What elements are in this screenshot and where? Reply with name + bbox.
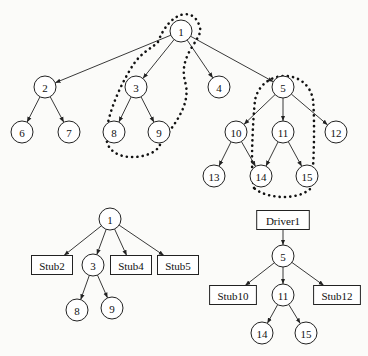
node-left_subtree-3: 3 bbox=[82, 254, 104, 276]
node-label: 8 bbox=[74, 305, 80, 317]
node-label: 9 bbox=[109, 303, 115, 315]
node-label: 14 bbox=[256, 171, 268, 183]
node-right_subtree-15: 15 bbox=[295, 322, 317, 344]
node-label: Stub4 bbox=[118, 260, 144, 272]
integration-test-diagram: 1234567891011121314151Stub23Stub4Stub589… bbox=[0, 0, 368, 356]
node-label: 3 bbox=[90, 260, 96, 272]
edge-right_subtree-5-to-stub10 bbox=[245, 263, 274, 286]
edge-top_tree-5-to-10 bbox=[244, 95, 275, 125]
node-label: 15 bbox=[302, 171, 314, 183]
node-top_tree-8: 8 bbox=[103, 121, 125, 143]
edge-left_subtree-3-to-8 bbox=[81, 275, 90, 299]
node-left_subtree-9: 9 bbox=[101, 297, 123, 319]
edge-top_tree-3-to-8 bbox=[119, 97, 131, 122]
node-right_subtree-stub10: Stub10 bbox=[210, 286, 257, 305]
node-label: Stub5 bbox=[165, 260, 191, 272]
node-label: 13 bbox=[209, 171, 221, 183]
nodes: 1234567891011121314151Stub23Stub4Stub589… bbox=[11, 20, 360, 344]
node-top_tree-12: 12 bbox=[325, 121, 347, 143]
edge-top_tree-1-to-4 bbox=[187, 40, 213, 78]
node-right_subtree-driver1: Driver1 bbox=[257, 211, 310, 230]
node-top_tree-14: 14 bbox=[250, 165, 272, 187]
node-label: 11 bbox=[278, 127, 289, 139]
node-label: 5 bbox=[280, 82, 286, 94]
node-label: Stub2 bbox=[39, 260, 65, 272]
edge-left_subtree-1-to-stub4 bbox=[115, 229, 127, 255]
node-left_subtree-8: 8 bbox=[66, 299, 88, 321]
edge-top_tree-11-to-15 bbox=[288, 142, 301, 167]
node-left_subtree-1: 1 bbox=[99, 208, 121, 230]
node-right_subtree-stub12: Stub12 bbox=[314, 286, 361, 305]
edge-top_tree-2-to-6 bbox=[27, 97, 40, 122]
edge-left_subtree-3-to-9 bbox=[97, 275, 107, 298]
node-label: 15 bbox=[301, 328, 313, 340]
edge-top_tree-1-to-2 bbox=[55, 35, 171, 83]
node-top_tree-5: 5 bbox=[272, 76, 294, 98]
edge-right_subtree-5-to-stub12 bbox=[292, 262, 324, 285]
node-right_subtree-11: 11 bbox=[272, 284, 294, 306]
node-label: 3 bbox=[133, 82, 139, 94]
edge-top_tree-5-to-12 bbox=[291, 94, 327, 125]
edge-right_subtree-11-to-15 bbox=[289, 304, 301, 323]
edge-left_subtree-1-to-stub2 bbox=[64, 226, 101, 256]
node-left_subtree-stub5: Stub5 bbox=[158, 256, 199, 275]
node-top_tree-13: 13 bbox=[203, 165, 225, 187]
node-top_tree-3: 3 bbox=[125, 76, 147, 98]
node-label: 14 bbox=[257, 328, 269, 340]
node-label: 1 bbox=[178, 26, 184, 38]
node-top_tree-6: 6 bbox=[11, 121, 33, 143]
node-label: 10 bbox=[231, 127, 243, 139]
node-top_tree-2: 2 bbox=[34, 76, 56, 98]
edge-top_tree-1-to-5 bbox=[191, 36, 274, 81]
node-top_tree-4: 4 bbox=[208, 76, 230, 98]
edge-left_subtree-1-to-3 bbox=[97, 229, 106, 254]
node-label: 5 bbox=[280, 251, 286, 263]
node-right_subtree-5: 5 bbox=[272, 245, 294, 267]
node-label: 2 bbox=[42, 82, 48, 94]
edge-top_tree-1-to-3 bbox=[143, 40, 174, 79]
edge-top_tree-10-to-13 bbox=[219, 142, 231, 166]
node-top_tree-9: 9 bbox=[148, 121, 170, 143]
node-label: Stub12 bbox=[321, 290, 352, 302]
node-label: Stub10 bbox=[217, 290, 249, 302]
node-label: Driver1 bbox=[266, 215, 300, 227]
node-top_tree-7: 7 bbox=[58, 121, 80, 143]
node-right_subtree-14: 14 bbox=[251, 322, 273, 344]
edge-top_tree-11-to-14 bbox=[266, 142, 278, 166]
node-label: 4 bbox=[216, 82, 222, 94]
node-label: 12 bbox=[331, 127, 342, 139]
node-label: 11 bbox=[278, 290, 289, 302]
node-top_tree-15: 15 bbox=[296, 165, 318, 187]
node-left_subtree-stub4: Stub4 bbox=[111, 256, 152, 275]
node-label: 6 bbox=[19, 127, 25, 139]
node-label: 8 bbox=[111, 127, 117, 139]
edge-top_tree-3-to-9 bbox=[141, 97, 154, 122]
edge-right_subtree-11-to-14 bbox=[267, 305, 277, 324]
node-label: 1 bbox=[107, 214, 113, 226]
node-top_tree-10: 10 bbox=[225, 121, 247, 143]
node-left_subtree-stub2: Stub2 bbox=[32, 256, 73, 275]
node-label: 7 bbox=[66, 127, 72, 139]
edge-left_subtree-1-to-stub5 bbox=[119, 225, 164, 255]
edge-top_tree-2-to-7 bbox=[50, 97, 64, 123]
node-top_tree-1: 1 bbox=[170, 20, 192, 42]
node-top_tree-11: 11 bbox=[272, 121, 294, 143]
node-label: 9 bbox=[156, 127, 162, 139]
